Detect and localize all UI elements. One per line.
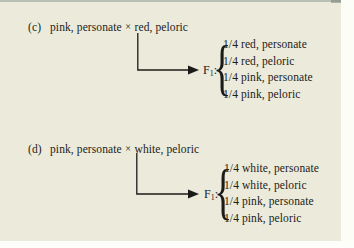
offspring-item: 1/4 pink, peloric [224, 210, 319, 227]
offspring-list-d: 1/4 white, personate 1/4 white, peloric … [224, 160, 319, 227]
offspring-item: 1/4 pink, peloric [223, 86, 313, 103]
cross-symbol-icon-c: × [122, 21, 135, 32]
elbow-arrow-c [137, 33, 203, 75]
offspring-item: 1/4 red, peloric [223, 53, 313, 70]
parent-one-c: pink, personate [50, 21, 122, 33]
panel-d: (d)pink, personate×white, peloric F1: { … [0, 124, 354, 248]
parent-two-c: red, peloric [135, 21, 189, 33]
offspring-item: 1/4 pink, personate [223, 69, 313, 86]
offspring-item: 1/4 white, peloric [224, 177, 319, 194]
cross-symbol-icon-d: × [122, 143, 135, 154]
parent-one-d: pink, personate [50, 143, 122, 155]
panel-c: (c)pink, personate×red, peloric F1: { 1/… [0, 0, 354, 124]
offspring-item: 1/4 red, personate [223, 36, 313, 53]
figure-page: (c)pink, personate×red, peloric F1: { 1/… [0, 0, 354, 248]
panel-label-c: (c) [28, 21, 50, 33]
offspring-item: 1/4 pink, personate [224, 193, 319, 210]
f1-generation-letter-d: F [204, 187, 211, 201]
elbow-arrow-d [136, 153, 204, 199]
cross-heading-c: (c)pink, personate×red, peloric [28, 21, 188, 33]
f1-generation-letter-c: F [203, 63, 210, 77]
panel-label-d: (d) [28, 143, 50, 155]
offspring-list-c: 1/4 red, personate 1/4 red, peloric 1/4 … [223, 36, 313, 103]
offspring-item: 1/4 white, personate [224, 160, 319, 177]
